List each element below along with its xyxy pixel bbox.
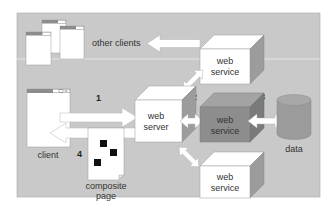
data-label: data [285, 144, 303, 154]
web-service-bottom-label-1: web [216, 172, 234, 182]
other-clients-label: other clients [92, 38, 141, 48]
composite-page [88, 128, 124, 180]
composite-page-label-2: page [96, 191, 116, 201]
web-service-middle-label-1: web [216, 115, 234, 125]
data-cylinder [277, 95, 311, 140]
page-block-icon [94, 159, 101, 166]
web-service-top-label-1: web [216, 56, 234, 66]
step-1-label: 1 [96, 93, 101, 103]
web-service-bottom-cube: web service [200, 152, 264, 198]
web-server-label-1: web [147, 111, 165, 121]
window-icon [26, 32, 51, 65]
composite-page-label-1: composite [85, 181, 126, 191]
web-service-top-cube: web service [200, 35, 264, 84]
architecture-diagram: other clients web service client 1 2 3 4… [0, 0, 336, 218]
window-icon [60, 26, 84, 59]
web-service-top-label-2: service [211, 67, 240, 77]
web-service-middle-label-2: service [211, 126, 240, 136]
step-4-label: 4 [77, 149, 82, 159]
web-service-bottom-label-2: service [211, 183, 240, 193]
web-server-cube: web server [135, 86, 196, 142]
web-server-label-2: server [143, 122, 168, 132]
client-label: client [37, 150, 59, 160]
page-block-icon [100, 140, 107, 147]
page-block-icon [110, 149, 117, 156]
